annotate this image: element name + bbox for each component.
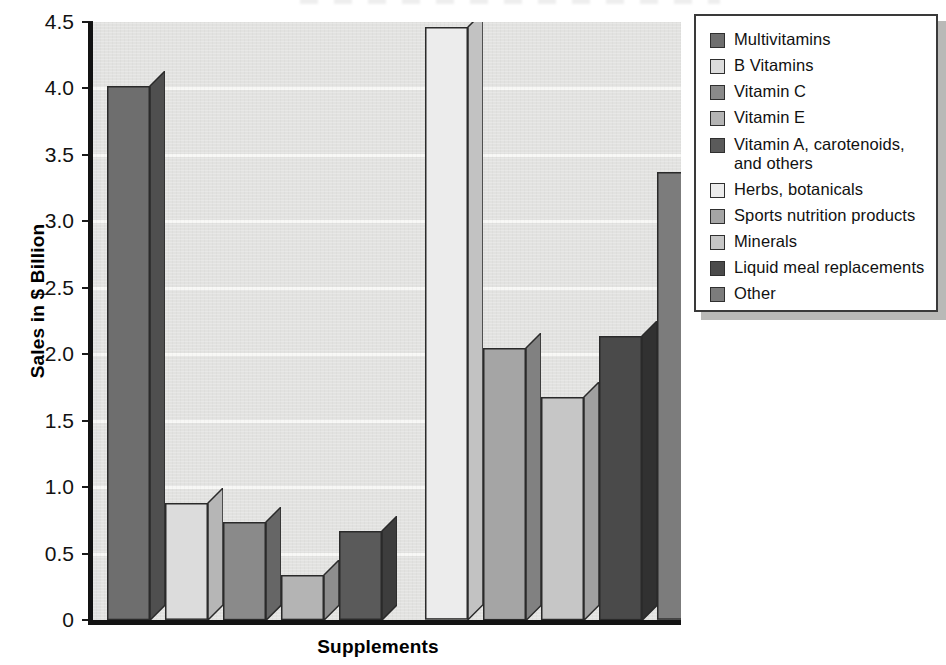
- legend-item: Liquid meal replacements: [710, 258, 926, 277]
- bar: [599, 321, 657, 620]
- y-axis-tick-label: 2.0: [18, 343, 74, 364]
- y-axis-tick-label: 1.0: [18, 476, 74, 497]
- legend-item-label: B Vitamins: [734, 56, 814, 75]
- bar: [281, 560, 339, 620]
- plot-area: [93, 22, 681, 620]
- bar-3d-side: [339, 516, 397, 620]
- legend-item: B Vitamins: [710, 56, 926, 75]
- y-axis-tick-label: 3.0: [18, 210, 74, 231]
- gridline: [93, 154, 681, 157]
- plot-frame: [88, 22, 681, 625]
- bar: [223, 507, 281, 620]
- legend-swatch-icon: [710, 261, 725, 276]
- bar-3d-side: [657, 157, 681, 620]
- y-axis-tick-labels: 4.54.03.53.02.52.01.51.00.50: [12, 0, 74, 665]
- gridline: [93, 87, 681, 90]
- bar-3d-side: [281, 560, 339, 620]
- legend-item: Multivitamins: [710, 30, 926, 49]
- gridline: [93, 287, 681, 290]
- legend-item: Herbs, botanicals: [710, 180, 926, 199]
- legend-item-label: Vitamin C: [734, 82, 806, 101]
- y-axis-tick-label: 0.5: [18, 543, 74, 564]
- bar-3d-side: [107, 71, 165, 620]
- legend-item-label: Herbs, botanicals: [734, 180, 863, 199]
- legend-swatch-icon: [710, 183, 725, 198]
- cropped-title-remnant: [300, 0, 720, 4]
- bar: [165, 488, 223, 620]
- legend-item-label: Sports nutrition products: [734, 206, 915, 225]
- gridline: [93, 220, 681, 223]
- legend-swatch-icon: [710, 209, 725, 224]
- bar-3d-side: [165, 488, 223, 620]
- legend-item-label: Liquid meal replacements: [734, 258, 924, 277]
- legend-swatch-icon: [710, 287, 725, 302]
- bar: [657, 157, 681, 620]
- legend: MultivitaminsB VitaminsVitamin CVitamin …: [694, 14, 938, 312]
- legend-item: Vitamin A, carotenoids, and others: [710, 135, 926, 173]
- gridline: [93, 353, 681, 356]
- legend-item: Minerals: [710, 232, 926, 251]
- legend-swatch-icon: [710, 235, 725, 250]
- legend-item: Vitamin E: [710, 108, 926, 127]
- bar: [107, 71, 165, 620]
- legend-item: Vitamin C: [710, 82, 926, 101]
- bar: [541, 382, 599, 620]
- legend-item: Sports nutrition products: [710, 206, 926, 225]
- y-axis-tick-label: 4.0: [18, 77, 74, 98]
- x-axis-title: Supplements: [80, 636, 676, 658]
- bar: [483, 333, 541, 620]
- legend-item-label: Multivitamins: [734, 30, 831, 49]
- legend-swatch-icon: [710, 85, 725, 100]
- legend-item-label: Vitamin A, carotenoids, and others: [734, 135, 926, 173]
- bar-3d-side: [223, 507, 281, 620]
- bar-3d-side: [483, 333, 541, 620]
- y-axis-tick-label: 4.5: [18, 11, 74, 32]
- legend-item: Other: [710, 284, 926, 303]
- legend-item-label: Minerals: [734, 232, 797, 251]
- bar-3d-side: [425, 22, 483, 620]
- y-axis-tick-label: 0: [18, 609, 74, 630]
- chart-figure: Sales in $ Billion Supplements 4.54.03.5…: [0, 0, 946, 665]
- bar-3d-side: [599, 321, 657, 620]
- y-axis-tick-label: 3.5: [18, 144, 74, 165]
- legend-swatch-icon: [710, 59, 725, 74]
- bar-3d-side: [541, 382, 599, 620]
- legend-item-label: Vitamin E: [734, 108, 805, 127]
- legend-item-label: Other: [734, 284, 776, 303]
- y-axis-tick-label: 1.5: [18, 410, 74, 431]
- legend-swatch-icon: [710, 111, 725, 126]
- legend-swatch-icon: [710, 138, 725, 153]
- bar: [425, 22, 483, 620]
- y-axis-tick-label: 2.5: [18, 277, 74, 298]
- bar: [339, 516, 397, 620]
- legend-swatch-icon: [710, 33, 725, 48]
